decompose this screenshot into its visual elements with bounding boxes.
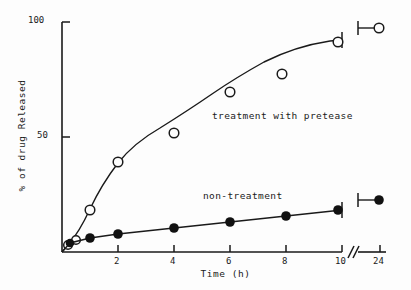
datapoint-filled-5 [281,211,291,221]
curve-non-treatment [62,210,342,252]
x-axis-title: Time (h) [0,268,411,279]
datapoint-open-24h [374,23,384,33]
series-non-treatment [62,193,384,252]
axes [62,22,386,252]
curve-treatment-with-pretease [62,40,342,252]
datapoint-open-6 [277,69,287,79]
datapoint-filled-2 [113,229,123,239]
y-axis-title: % of drug Released [16,66,27,206]
x-tick-label-2: 2 [114,256,119,266]
y-axis-ticks [62,22,70,137]
datapoint-filled-3 [169,223,179,233]
datapoint-open-5 [225,87,235,97]
datapoint-filled-6 [333,205,343,215]
x-tick-label-4: 4 [170,256,175,266]
datapoint-open-4 [169,128,179,138]
x-tick-label-6: 6 [226,256,231,266]
datapoint-filled-1 [85,233,95,243]
datapoint-filled-0 [66,239,75,248]
x-tick-label-10: 10 [335,256,346,266]
x-tick-label-8: 8 [282,256,287,266]
drug-release-chart: 100 50 2 4 6 8 10 24 treatment with pret… [0,0,411,290]
datapoint-filled-24h [374,195,384,205]
annotation-non-treatment: non-treatment [203,190,283,201]
chart-canvas [0,0,411,290]
annotation-treatment-with-pretease: treatment with pretease [212,110,353,121]
datapoint-open-3 [113,157,123,167]
axis-break-icon [348,246,359,258]
y-tick-label-50: 50 [37,130,48,140]
y-tick-label-100: 100 [28,15,44,25]
datapoint-open-7 [333,37,343,47]
x-axis-ticks [118,245,380,252]
series-treatment-with-pretease [62,21,384,252]
x-tick-label-24: 24 [373,256,384,266]
datapoint-filled-4 [225,217,235,227]
datapoint-open-2 [85,205,95,215]
